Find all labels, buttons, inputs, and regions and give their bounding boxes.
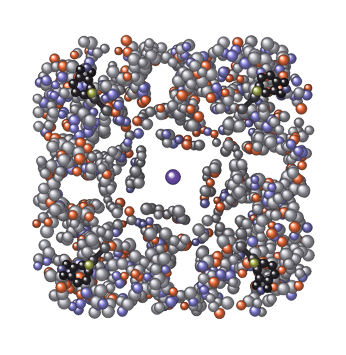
molecule-viewport xyxy=(0,0,346,355)
molecular-structure-image xyxy=(0,0,346,355)
